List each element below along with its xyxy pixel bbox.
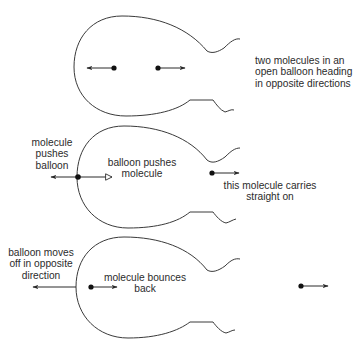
label-balloon-pushes-molecule: balloon pushes molecule [104, 157, 180, 180]
label-line: back [100, 283, 190, 294]
label-line: direction [6, 270, 76, 281]
label-molecule-bounces-back: molecule bounces back [100, 272, 190, 295]
label-line: straight on [218, 191, 322, 202]
balloon-diagram [0, 0, 362, 348]
label-line: this molecule carries [218, 180, 322, 191]
label-line: balloon pushes [104, 157, 180, 168]
label-line: balloon moves [6, 247, 76, 258]
label-line: molecule [104, 168, 180, 179]
label-line: molecule bounces [100, 272, 190, 283]
label-line: pushes [28, 148, 76, 159]
label-molecule-pushes-balloon: molecule pushes balloon [28, 137, 76, 171]
label-line: off in opposite [6, 258, 76, 269]
label-balloon-moves-off: balloon moves off in opposite direction [6, 247, 76, 281]
molecule-2a-at-wall [51, 174, 112, 180]
caption-line: two molecules in an [255, 55, 352, 66]
label-molecule-carries-on: this molecule carries straight on [218, 180, 322, 203]
caption-two-molecules: two molecules in an open balloon heading… [255, 55, 352, 89]
molecule-3b [298, 283, 328, 288]
molecule-2b [209, 170, 239, 175]
molecule-1b [155, 65, 185, 70]
label-line: molecule [28, 137, 76, 148]
caption-line: in opposite directions [255, 78, 352, 89]
caption-line: open balloon heading [255, 66, 352, 77]
molecule-1a [87, 65, 117, 70]
label-line: balloon [28, 160, 76, 171]
